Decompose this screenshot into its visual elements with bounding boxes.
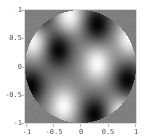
plot-area (24, 9, 137, 124)
x-tick-mark (80, 124, 81, 127)
x-tick-label: 1 (126, 129, 146, 136)
y-tick-label: 1 (2, 7, 22, 14)
x-tick-mark (53, 124, 54, 127)
x-tick-label: -1 (17, 129, 37, 136)
y-tick-mark (21, 67, 24, 68)
y-tick-label: 0 (2, 64, 22, 71)
y-tick-mark (21, 123, 24, 124)
x-tick-label: 0.5 (98, 129, 118, 136)
x-tick-mark (135, 124, 136, 127)
y-tick-mark (21, 38, 24, 39)
y-tick-label: -0.5 (2, 92, 22, 99)
x-tick-mark (108, 124, 109, 127)
y-tick-label: -1 (2, 120, 22, 127)
y-tick-mark (21, 10, 24, 11)
y-tick-label: 0.5 (2, 35, 22, 42)
x-tick-label: -0.5 (44, 129, 64, 136)
y-tick-mark (21, 95, 24, 96)
x-tick-mark (26, 124, 27, 127)
x-tick-label: 0 (71, 129, 91, 136)
density-plot (25, 10, 136, 123)
